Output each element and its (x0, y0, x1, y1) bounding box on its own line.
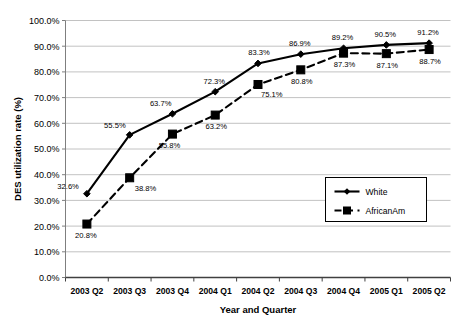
data-label: 32.6% (57, 182, 79, 191)
x-category-label: 2004 Q1 (199, 286, 232, 296)
data-point-marker (382, 50, 390, 58)
data-point-marker (168, 130, 176, 138)
data-label: 87.3% (334, 60, 356, 69)
y-tick-label: 40.0% (34, 170, 60, 180)
data-point-marker (254, 80, 262, 88)
data-label: 38.8% (135, 184, 157, 193)
data-label: 20.8% (75, 231, 97, 240)
y-tick-label: 30.0% (34, 196, 60, 206)
legend-marker-square (343, 207, 351, 215)
x-category-label: 2003 Q4 (156, 286, 189, 296)
legend-label-africanam[interactable]: AfricanAm (366, 206, 406, 216)
x-axis-category-labels: 2003 Q22003 Q32003 Q42004 Q12004 Q22004 … (70, 286, 445, 296)
y-tick-label: 70.0% (34, 93, 60, 103)
y-axis-title: DES utilization rate (%) (12, 97, 23, 201)
data-point-marker (425, 46, 433, 54)
data-label: 83.3% (248, 48, 270, 57)
data-point-marker (126, 174, 134, 182)
data-label: 75.1% (261, 90, 283, 99)
y-tick-label: 60.0% (34, 119, 60, 129)
data-point-marker (211, 111, 219, 119)
data-label: 91.2% (417, 28, 439, 37)
x-axis-title: Year and Quarter (220, 304, 297, 315)
y-tick-label: 20.0% (34, 222, 60, 232)
chart-background (0, 0, 467, 328)
x-category-label: 2003 Q2 (70, 286, 103, 296)
data-label: 55.5% (104, 121, 126, 130)
data-label: 89.2% (332, 33, 354, 42)
data-label: 63.2% (205, 122, 227, 131)
data-label: 86.9% (289, 39, 311, 48)
x-category-label: 2004 Q4 (327, 286, 360, 296)
x-category-label: 2005 Q1 (370, 286, 403, 296)
data-label: 72.3% (203, 77, 225, 86)
y-tick-label: 90.0% (34, 42, 60, 52)
x-category-label: 2004 Q2 (242, 286, 275, 296)
data-label: 80.8% (291, 77, 313, 86)
line-chart: 0.0%10.0%20.0%30.0%40.0%50.0%60.0%70.0%8… (0, 0, 467, 328)
data-point-marker (83, 220, 91, 228)
data-point-marker (297, 66, 305, 74)
x-category-label: 2003 Q3 (113, 286, 146, 296)
legend-label-white[interactable]: White (366, 187, 388, 197)
y-tick-label: 10.0% (34, 247, 60, 257)
x-category-label: 2005 Q2 (413, 286, 446, 296)
data-point-marker (340, 49, 348, 57)
chart-legend[interactable]: WhiteAfricanAm (326, 178, 427, 222)
y-tick-label: 0.0% (39, 273, 60, 283)
data-label: 55.8% (159, 141, 181, 150)
y-tick-label: 50.0% (34, 144, 60, 154)
data-label: 90.5% (375, 30, 397, 39)
data-label: 87.1% (377, 61, 399, 70)
data-label: 63.7% (150, 99, 172, 108)
y-tick-label: 100.0% (29, 16, 60, 26)
y-tick-label: 80.0% (34, 67, 60, 77)
x-category-label: 2004 Q3 (284, 286, 317, 296)
data-label: 88.7% (419, 57, 441, 66)
chart-container: 0.0%10.0%20.0%30.0%40.0%50.0%60.0%70.0%8… (0, 0, 467, 328)
